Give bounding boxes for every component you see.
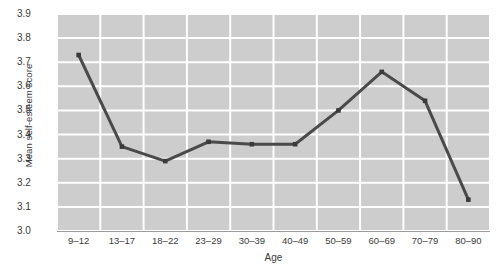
x-tick-label: 9–12 [68,234,89,248]
x-tick-label: 30–39 [239,234,265,248]
data-series-line [57,14,490,231]
x-axis-title: Age [57,251,490,264]
y-axis-tick-labels: 3.03.13.23.33.43.53.63.73.83.9 [0,0,57,273]
x-tick-label: 13–17 [109,234,135,248]
x-tick-label: 18–22 [152,234,178,248]
series-polyline [79,55,469,200]
data-point-marker [120,144,125,149]
x-tick-label: 80–90 [455,234,481,248]
x-axis-line [57,231,490,232]
y-tick-label: 3.7 [9,56,57,68]
line-chart-figure: Mean self-esteem score 3.03.13.23.33.43.… [0,0,503,273]
y-tick-label: 3.2 [9,177,57,189]
data-point-marker [466,197,471,202]
x-tick-label: 23–29 [195,234,221,248]
data-point-marker [293,142,298,147]
data-point-marker [336,108,341,113]
x-tick-label: 60–69 [369,234,395,248]
y-tick-label: 3.1 [9,201,57,213]
data-point-marker [379,70,384,75]
data-point-marker [76,53,81,58]
x-tick-label: 40–49 [282,234,308,248]
x-axis-tick-labels: 9–1213–1718–2223–2930–3940–4950–5960–697… [57,234,490,250]
y-tick-label: 3.8 [9,32,57,44]
data-point-marker [206,139,211,144]
y-tick-label: 3.4 [9,129,57,141]
y-tick-label: 3.3 [9,153,57,165]
x-tick-label: 70–79 [412,234,438,248]
data-point-marker [250,142,255,147]
plot-area [57,14,490,231]
data-point-marker [163,159,168,164]
data-point-marker [423,99,428,104]
y-tick-label: 3.5 [9,104,57,116]
x-tick-label: 50–59 [325,234,351,248]
y-tick-label: 3.9 [9,8,57,20]
y-tick-label: 3.6 [9,80,57,92]
y-tick-label: 3.0 [9,225,57,237]
